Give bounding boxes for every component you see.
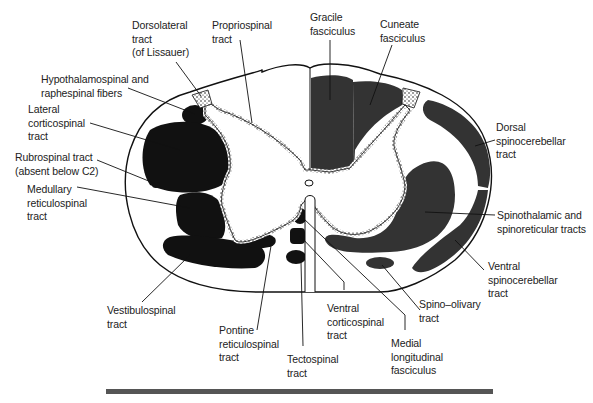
tectospinal-tract (286, 250, 306, 264)
label-ventral-corticospinal: Ventral corticospinal tract (327, 302, 384, 343)
caption-bar (106, 389, 493, 394)
ventral-median-fissure (305, 196, 315, 293)
spinal-cord-diagram: Dorsolateral tract (of Lissauer) Proprio… (0, 0, 593, 403)
label-gracile-fasciculus: Gracile fasciculus (310, 11, 355, 38)
label-rubrospinal: Rubrospinal tract (absent below C2) (15, 151, 99, 178)
lateral-corticospinal-tract (143, 122, 231, 193)
label-lateral-corticospinal: Lateral corticospinal tract (28, 103, 85, 144)
label-dorsal-spinocerebellar: Dorsal spinocerebellar tract (496, 121, 566, 162)
label-hypothalamospinal: Hypothalamospinal and raphespinal fibers (41, 73, 149, 100)
label-dorsolateral-tract: Dorsolateral tract (of Lissauer) (132, 19, 189, 60)
label-ventral-spinocerebellar: Ventral spinocerebellar tract (488, 260, 558, 301)
label-propriospinal-tract: Propriospinal tract (212, 19, 272, 46)
spinal-cord-cross-section (0, 0, 593, 403)
label-pontine-reticulospinal: Pontine reticulospinal tract (219, 324, 279, 365)
label-cuneate-fasciculus: Cuneate fasciculus (380, 18, 425, 45)
label-medullary-reticulospinal: Medullary reticulospinal tract (27, 183, 87, 224)
ventral-corticospinal-tract (290, 228, 305, 244)
central-canal (305, 180, 313, 186)
label-vestibulospinal: Vestibulospinal tract (107, 304, 176, 331)
label-spino-olivary: Spino–olivary tract (419, 298, 481, 325)
spino-olivary-tract (366, 257, 394, 269)
label-tectospinal: Tectospinal tract (287, 353, 338, 380)
gracile-fasciculus (311, 75, 354, 172)
label-medial-longitudinal: Medial longitudinal fasciculus (391, 337, 443, 378)
label-spinothalamic: Spinothalamic and spinoreticular tracts (497, 209, 586, 236)
